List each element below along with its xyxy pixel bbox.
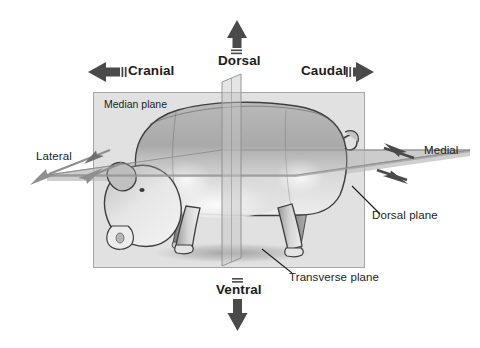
caudal-arrow-icon [346, 62, 374, 82]
label-median-plane: Median plane [104, 99, 167, 110]
label-ventral: Ventral [216, 283, 262, 297]
transverse-plane-shape [222, 74, 241, 266]
dorsal-arrow-icon [227, 20, 247, 54]
pig-hoof-hind-near [285, 248, 304, 257]
pig-nostril [116, 233, 124, 243]
label-dorsal: Dorsal [218, 54, 261, 68]
label-caudal: Caudal [301, 64, 347, 78]
anatomical-planes-figure: Dorsal Ventral Cranial Caudal Lateral Me… [0, 0, 480, 348]
pig-eye [139, 188, 144, 192]
label-medial: Medial [424, 145, 458, 157]
label-dorsal-plane: Dorsal plane [372, 210, 438, 222]
label-transverse-plane: Transverse plane [289, 272, 379, 284]
pig-hoof-fore-near [175, 245, 194, 254]
label-lateral: Lateral [36, 151, 72, 163]
cranial-arrow-icon [88, 62, 127, 82]
label-cranial: Cranial [128, 64, 174, 78]
